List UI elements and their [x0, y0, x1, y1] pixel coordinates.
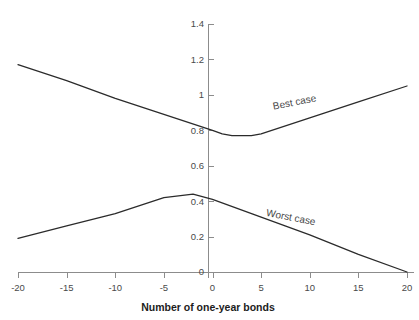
x-tick-label: -5 — [160, 282, 168, 293]
y-tick-marks — [209, 25, 214, 273]
series-annotations: Best caseWorst case — [265, 92, 317, 227]
y-tick-labels: 00.20.40.60.811.21.4 — [191, 18, 204, 277]
y-tick-label: 1.4 — [191, 18, 204, 29]
y-tick-label: 0.4 — [191, 196, 204, 207]
chart-container: -20-15-10-505101520 00.20.40.60.811.21.4… — [0, 0, 419, 320]
x-tick-label: -15 — [60, 282, 74, 293]
axes-group — [18, 24, 414, 278]
x-axis-title: Number of one-year bonds — [141, 301, 275, 313]
x-tick-label: -10 — [108, 282, 122, 293]
line-chart: -20-15-10-505101520 00.20.40.60.811.21.4… — [0, 0, 419, 320]
x-tick-label: 20 — [402, 282, 413, 293]
y-tick-label: 1 — [199, 89, 204, 100]
y-tick-label: 1.2 — [191, 54, 204, 65]
series-annotation-label: Worst case — [265, 207, 316, 227]
x-tick-label: -20 — [11, 282, 25, 293]
y-tick-label: 0.6 — [191, 160, 204, 171]
x-tick-label: 15 — [353, 282, 364, 293]
series-line-best-case — [18, 65, 407, 136]
series-line-worst-case — [18, 194, 407, 272]
y-tick-label: 0.2 — [191, 231, 204, 242]
x-tick-marks — [19, 273, 408, 278]
x-tick-labels: -20-15-10-505101520 — [11, 282, 412, 293]
x-tick-label: 10 — [304, 282, 315, 293]
x-tick-label: 0 — [210, 282, 215, 293]
x-tick-label: 5 — [258, 282, 263, 293]
series-annotation-label: Best case — [272, 92, 318, 111]
y-tick-label: 0 — [199, 266, 204, 277]
